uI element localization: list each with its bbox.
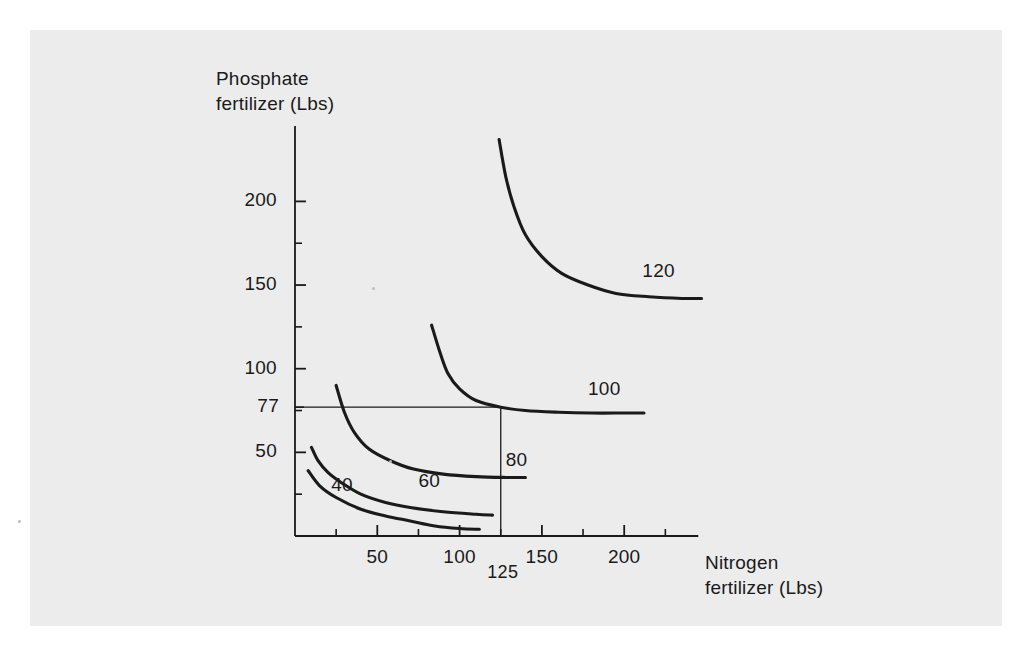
- paper-speck: [18, 520, 21, 523]
- paper-speck: [372, 287, 375, 290]
- curve-label-80: 80: [506, 449, 528, 471]
- y-tick-label-77: 77: [257, 395, 279, 417]
- axes: [295, 126, 698, 536]
- curve-label-100: 100: [588, 378, 621, 400]
- x-axis-title: Nitrogen fertilizer (Lbs): [705, 550, 823, 600]
- curve-label-60: 60: [418, 470, 440, 492]
- x-tick-label-50: 50: [366, 546, 388, 568]
- isoquant-curve-80: [336, 385, 525, 477]
- x-tick-label-125: 125: [487, 562, 518, 583]
- y-tick-label-200: 200: [244, 189, 277, 211]
- curve-label-40: 40: [331, 474, 353, 496]
- y-axis-title: Phosphate fertilizer (Lbs): [216, 66, 334, 116]
- y-tick-label-50: 50: [255, 440, 277, 462]
- x-tick-label-200: 200: [608, 546, 641, 568]
- x-tick-label-150: 150: [526, 546, 559, 568]
- isoquant-curves: [308, 140, 701, 530]
- paper-speck: [389, 460, 392, 463]
- scanned-page: Phosphate fertilizer (Lbs) Nitrogen fert…: [0, 0, 1032, 659]
- x-tick-label-100: 100: [443, 546, 476, 568]
- y-tick-label-100: 100: [244, 357, 277, 379]
- y-tick-label-150: 150: [244, 273, 277, 295]
- curve-label-120: 120: [642, 260, 675, 282]
- isoquant-chart: [0, 0, 1032, 659]
